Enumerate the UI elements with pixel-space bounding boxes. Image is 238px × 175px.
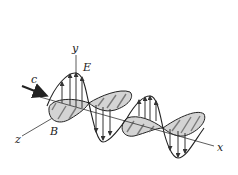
z-axis-label: z — [14, 133, 21, 146]
em-wave-diagram: y E c B z x — [0, 0, 238, 175]
x-axis-label: x — [217, 141, 224, 154]
velocity-arrow — [22, 86, 45, 95]
electric-field-label: E — [82, 61, 91, 74]
magnetic-field-label: B — [49, 125, 58, 138]
velocity-label: c — [31, 73, 37, 86]
magnetic-field-wave — [49, 91, 205, 136]
y-axis-label: y — [71, 42, 79, 55]
